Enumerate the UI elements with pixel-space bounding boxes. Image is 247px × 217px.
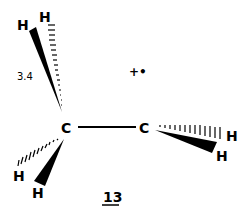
wedge-bond-c1-h4 [34, 139, 64, 186]
atom-h1: H [17, 17, 29, 33]
atom-h5: H [226, 128, 238, 144]
radical-cation-marker: +• [129, 65, 147, 79]
atom-h4: H [32, 185, 44, 201]
structure-diagram: C C H H H H H H 3.4 +• 13 [0, 0, 247, 217]
atom-h2: H [39, 9, 51, 25]
atom-c1: C [61, 120, 71, 136]
atom-h3: H [13, 168, 25, 184]
atom-c2: C [139, 120, 149, 136]
compound-number: 13 [103, 189, 122, 205]
annotation-label: 3.4 [17, 71, 33, 82]
atom-h6: H [216, 148, 228, 164]
wedge-bond-c2-h6 [155, 130, 217, 153]
